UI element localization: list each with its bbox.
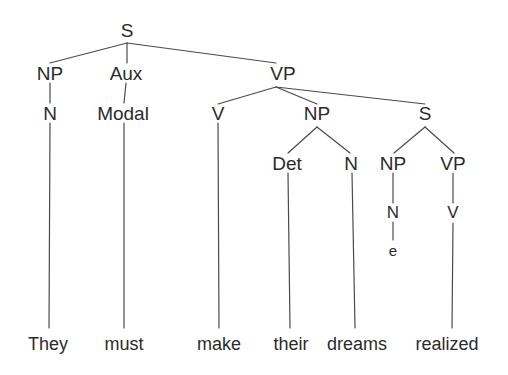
- edge-s-np: [50, 43, 127, 63]
- node-v-main: V: [212, 104, 225, 123]
- node-vp-main: VP: [270, 64, 295, 83]
- word-must: must: [104, 335, 143, 353]
- node-vp-embedded: VP: [440, 154, 465, 173]
- stem-det-their: [288, 173, 290, 328]
- edge-sembed-vp: [425, 127, 454, 153]
- edge-sembed-np: [394, 127, 425, 153]
- node-n-empty: N: [387, 204, 399, 221]
- word-realized: realized: [415, 335, 478, 353]
- edge-vp-s: [276, 87, 425, 104]
- node-det: Det: [272, 154, 302, 173]
- node-n-subject: N: [43, 104, 57, 123]
- edge-npobj-det: [288, 127, 317, 153]
- edge-npobj-n: [317, 127, 350, 153]
- node-root-s: S: [121, 21, 134, 40]
- word-dreams: dreams: [327, 335, 387, 353]
- node-np-object: NP: [304, 104, 330, 123]
- node-modal: Modal: [97, 104, 149, 123]
- node-s-embedded: S: [419, 104, 432, 123]
- stem-v-make: [218, 123, 219, 328]
- node-aux: Aux: [110, 64, 143, 83]
- node-v-embedded: V: [447, 204, 458, 221]
- tree-edges: [0, 0, 508, 375]
- word-their: their: [273, 335, 308, 353]
- stem-n-dreams: [352, 173, 355, 328]
- edge-aux-modal: [124, 83, 126, 103]
- edge-vp-v: [218, 87, 276, 104]
- word-make: make: [197, 335, 241, 353]
- node-np-embedded: NP: [380, 154, 406, 173]
- edge-s-vp: [127, 43, 276, 63]
- word-they: They: [28, 335, 68, 353]
- node-empty-element: e: [389, 243, 397, 258]
- stem-n-they: [49, 123, 50, 328]
- node-n-object: N: [344, 154, 358, 173]
- node-np-subject: NP: [37, 64, 63, 83]
- stem-v-realized: [452, 223, 453, 328]
- syntax-tree-diagram: S NP Aux VP N Modal V NP S Det N NP VP N…: [0, 0, 508, 375]
